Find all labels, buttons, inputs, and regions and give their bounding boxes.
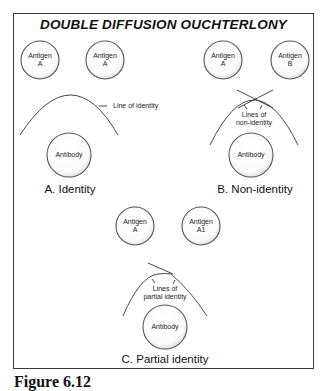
precipitin-arc-a — [20, 95, 118, 135]
panel-label-b: B. Non-identity — [205, 183, 305, 195]
antibody-label: Antibody — [229, 151, 273, 159]
tick-c1 — [152, 279, 155, 283]
panel-label-a: A. Identity — [30, 183, 110, 195]
figure-caption: Figure 6.12 — [14, 373, 91, 391]
antigen-label: Antigen B — [268, 52, 312, 68]
antigen-label: Antigen A — [18, 52, 62, 68]
tick-b1 — [244, 105, 247, 109]
spur-line-c — [148, 263, 173, 274]
antigen-label: Antigen A — [83, 52, 127, 68]
panel-label-c: C. Partial identity — [110, 353, 220, 365]
lines-of-non-identity-label: Lines of non-identity — [224, 111, 284, 127]
lines-of-partial-identity-label: Lines of partial identity — [130, 285, 200, 301]
line-of-identity-label: Line of identity — [113, 102, 158, 110]
antigen-label: Antigen A1 — [179, 218, 223, 234]
antigen-label: Antigen A — [201, 52, 245, 68]
antigen-label: Antigen A — [113, 218, 157, 234]
antibody-label: Antibody — [143, 323, 187, 331]
tick-b2 — [260, 105, 262, 109]
tick-c2 — [173, 280, 175, 284]
antibody-label: Antibody — [47, 151, 91, 159]
